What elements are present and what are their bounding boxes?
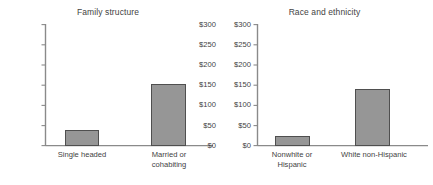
ytick-label: $250	[177, 41, 216, 49]
xtick-label-nonwhite-or-hispanic: Nonwhite or Hispanic	[248, 150, 336, 169]
xtick-label-single-headed: Single headed	[38, 150, 126, 160]
bar-single-headed	[65, 130, 99, 146]
ytick-label: $200	[216, 61, 251, 69]
xtick-label-white-non-hispanic: White non-Hispanic	[329, 150, 419, 160]
bar-white-non-hispanic	[355, 89, 390, 146]
ytick-label: $0	[216, 142, 251, 150]
ytick-label: $100	[216, 101, 251, 109]
ytick-label: $200	[177, 61, 216, 69]
xtick-label-married-or-cohabiting: Married or cohabiting	[125, 150, 213, 169]
chart-panel-race-and-ethnicity: Race and ethnicity $300 $250 $200 $150 $…	[216, 0, 433, 185]
ytick-label: $300	[216, 21, 251, 29]
bar-nonwhite-or-hispanic	[275, 136, 310, 145]
bar-chart-figure: Family structure $300 $250 $200 $150	[0, 0, 433, 185]
bar-married-or-cohabiting	[151, 84, 186, 146]
plot-area-race-and-ethnicity: $300 $250 $200 $150 $100 $50 $0 Nonwhite…	[216, 0, 433, 185]
ytick-label: $300	[177, 21, 216, 29]
ytick-label: $250	[216, 41, 251, 49]
plot-area-family-structure: $300 $250 $200 $150 $100 $50 $0 Single h…	[0, 0, 216, 185]
chart-panel-family-structure: Family structure $300 $250 $200 $150	[0, 0, 216, 185]
ytick-label: $150	[216, 81, 251, 89]
ytick-label: $50	[216, 122, 251, 130]
